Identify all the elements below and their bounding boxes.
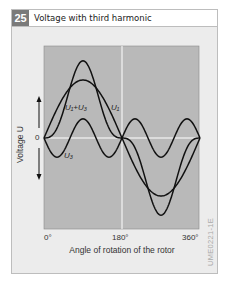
x-tick-360: 360° xyxy=(182,233,199,242)
arrow-down-icon xyxy=(37,174,42,180)
y-axis-label: Voltage U xyxy=(15,126,25,163)
y-tick-zero: 0 xyxy=(35,133,39,142)
figure-code: UME0221-1E xyxy=(206,218,215,266)
x-tick-0: 0° xyxy=(44,233,52,242)
x-tick-180: 180° xyxy=(112,233,129,242)
arrow-up-icon xyxy=(37,96,42,102)
x-axis-label: Angle of rotation of the rotor xyxy=(44,245,200,255)
label-u1: U₁ xyxy=(111,103,119,112)
label-u3: U₃ xyxy=(64,151,73,160)
label-u1-plus-u3: U₁+U₃ xyxy=(65,103,87,112)
